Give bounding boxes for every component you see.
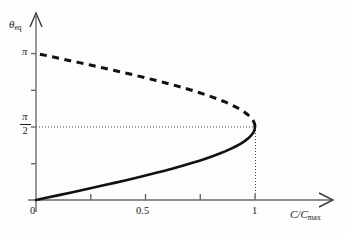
y-axis-label: θeq — [9, 19, 22, 30]
x-axis-label-numerator: C — [290, 208, 297, 220]
stable-branch-curve — [36, 127, 255, 200]
x-axis-label-denominator: C — [300, 208, 307, 220]
unstable-branch-curve — [36, 53, 255, 126]
half-pi-denominator: 2 — [20, 125, 31, 137]
x-tick-label-0: 0 — [30, 206, 35, 217]
bifurcation-chart: θeq C/Cmax π π 2 0 0.5 1 — [0, 0, 345, 234]
y-tick-label-pi: π — [22, 47, 27, 58]
plot-canvas — [0, 0, 345, 234]
y-tick-label-half-pi: π 2 — [17, 112, 33, 136]
half-pi-fraction: π 2 — [20, 112, 31, 136]
x-axis-label: C/Cmax — [290, 209, 321, 220]
x-tick-label-05: 0.5 — [136, 206, 149, 217]
x-tick-label-1: 1 — [252, 206, 257, 217]
y-axis-label-subscript: eq — [14, 23, 21, 32]
x-axis-label-denominator-subscript: max — [308, 213, 321, 222]
half-pi-numerator: π — [20, 112, 31, 124]
